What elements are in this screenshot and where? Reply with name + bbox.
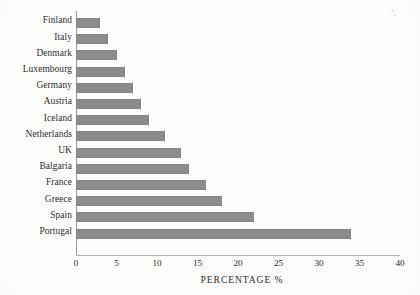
bar-row — [76, 64, 125, 80]
bar-row — [76, 226, 351, 242]
scan-speck-icon — [394, 14, 396, 16]
category-label-austria: Austria — [0, 96, 72, 106]
bar-denmark — [76, 50, 117, 60]
bar-balgaria — [76, 164, 189, 174]
category-label-france: France — [0, 177, 72, 187]
bar-france — [76, 180, 206, 190]
x-tick-0: 0 — [74, 258, 79, 268]
bar-row — [76, 112, 149, 128]
x-axis-title: PERCENTAGE % — [0, 274, 420, 285]
bar-chart-figure: FinlandItalyDenmarkLuxembourgGermanyAust… — [0, 0, 420, 295]
category-label-iceland: Iceland — [0, 113, 72, 123]
category-label-spain: Spain — [0, 210, 72, 220]
bar-row — [76, 177, 206, 193]
x-tick-35: 35 — [355, 258, 364, 268]
category-label-portugal: Portugal — [0, 226, 72, 236]
x-tick-5: 5 — [114, 258, 119, 268]
x-axis-title-text: PERCENTAGE % — [201, 274, 284, 285]
category-label-germany: Germany — [0, 80, 72, 90]
bar-greece — [76, 196, 222, 206]
bar-portugal — [76, 229, 351, 239]
x-tick-30: 30 — [314, 258, 323, 268]
bar-row — [76, 193, 222, 209]
bar-spain — [76, 212, 254, 222]
scan-speck-icon — [391, 9, 394, 12]
bar-italy — [76, 34, 108, 44]
x-axis-line — [76, 255, 400, 256]
bar-row — [76, 47, 117, 63]
category-label-balgaria: Balgaria — [0, 161, 72, 171]
x-tick-25: 25 — [274, 258, 283, 268]
bar-uk — [76, 148, 181, 158]
bar-series — [76, 12, 400, 255]
bar-germany — [76, 83, 133, 93]
category-label-denmark: Denmark — [0, 48, 72, 58]
category-label-italy: Italy — [0, 32, 72, 42]
category-label-luxembourg: Luxembourg — [0, 64, 72, 74]
plot-area — [76, 12, 400, 255]
bar-row — [76, 96, 141, 112]
bar-finland — [76, 18, 100, 28]
bar-austria — [76, 99, 141, 109]
bar-row — [76, 80, 133, 96]
category-label-finland: Finland — [0, 15, 72, 25]
category-label-uk: UK — [0, 145, 72, 155]
bar-netherlands — [76, 131, 165, 141]
bar-row — [76, 145, 181, 161]
bar-iceland — [76, 115, 149, 125]
category-label-greece: Greece — [0, 194, 72, 204]
x-tick-40: 40 — [395, 258, 404, 268]
bar-row — [76, 209, 254, 225]
category-label-netherlands: Netherlands — [0, 129, 72, 139]
x-tick-20: 20 — [233, 258, 242, 268]
category-axis-labels: FinlandItalyDenmarkLuxembourgGermanyAust… — [0, 12, 72, 255]
x-tick-15: 15 — [193, 258, 202, 268]
bar-row — [76, 161, 189, 177]
bar-row — [76, 128, 165, 144]
bar-row — [76, 15, 100, 31]
bar-luxembourg — [76, 67, 125, 77]
x-axis-tick-labels: 0510152025303540 — [76, 258, 400, 272]
bar-row — [76, 31, 108, 47]
x-tick-10: 10 — [152, 258, 161, 268]
